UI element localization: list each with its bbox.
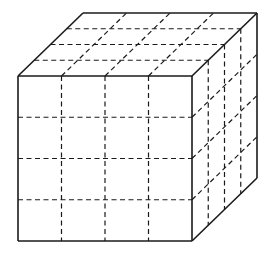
cube-diagram <box>0 0 270 255</box>
cube-svg <box>0 0 270 255</box>
cube-edge <box>192 13 257 76</box>
cube-edges <box>18 13 257 241</box>
cube-edge <box>18 13 83 76</box>
cube-edge <box>192 178 257 241</box>
